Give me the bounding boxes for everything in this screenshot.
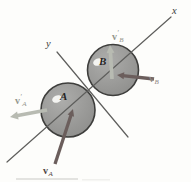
vB-subscript: B xyxy=(155,78,159,86)
vB-symbol: v xyxy=(149,73,154,84)
vA-label: vA xyxy=(43,164,53,178)
x-axis-label: x xyxy=(172,6,177,17)
collision-diagram xyxy=(0,0,191,182)
vB-prime-symbol: v xyxy=(112,31,117,42)
vB-prime-shaft xyxy=(110,51,112,79)
vB-prime-subscript: B xyxy=(119,36,123,44)
vA-prime-symbol: v xyxy=(15,95,20,106)
vA-subscript: A xyxy=(49,170,53,178)
vA-symbol: v xyxy=(43,165,48,176)
figure-canvas: x y A B vA vB v′A v′B xyxy=(0,0,191,182)
ball-B-label: B xyxy=(99,56,106,67)
vA-prime-arrowhead xyxy=(10,112,19,120)
vA-prime-label: v′A xyxy=(15,94,26,108)
vB-label: vB xyxy=(149,72,159,86)
vA-prime-subscript: A xyxy=(22,100,26,108)
vB-prime-label: v′B xyxy=(112,30,123,44)
scan-artifact xyxy=(82,179,110,181)
y-axis-label: y xyxy=(46,39,51,50)
ball-A-label: A xyxy=(60,91,67,102)
scan-artifact xyxy=(16,178,78,180)
